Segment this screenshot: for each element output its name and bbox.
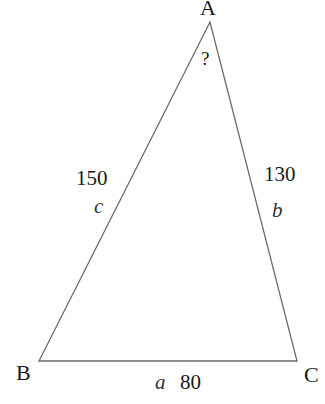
side-c-variable: c (94, 196, 103, 217)
vertex-b-label: B (16, 362, 31, 384)
triangle-outline (39, 22, 297, 361)
side-b-length: 130 (264, 164, 296, 185)
side-a-variable: a (155, 372, 166, 393)
triangle-diagram: A B C ? 150 c 130 b a 80 (0, 0, 325, 404)
angle-a-unknown: ? (201, 49, 209, 68)
side-b-variable: b (272, 200, 283, 221)
side-a-length: 80 (180, 372, 201, 393)
vertex-a-label: A (200, 0, 216, 19)
side-c-length: 150 (76, 168, 108, 189)
vertex-c-label: C (304, 364, 319, 386)
